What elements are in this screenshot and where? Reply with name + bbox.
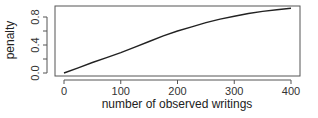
y-tick-label: 0.4 [29, 37, 41, 52]
x-axis-label: number of observed writings [102, 97, 253, 111]
plot-box [55, 6, 300, 76]
penalty-chart: 0.00.40.8 0100200300400 number of observ… [0, 0, 318, 118]
y-axis-label: penalty [3, 21, 17, 60]
x-tick-label: 300 [225, 85, 243, 97]
penalty-curve [64, 8, 291, 73]
x-tick-label: 100 [112, 85, 130, 97]
y-tick-label: 0.8 [29, 9, 41, 24]
y-tick-label: 0.0 [29, 65, 41, 80]
x-tick-label: 400 [282, 85, 300, 97]
x-tick-label: 200 [168, 85, 186, 97]
x-axis: 0100200300400 [61, 80, 300, 97]
y-axis: 0.00.40.8 [29, 9, 47, 80]
x-tick-label: 0 [61, 85, 67, 97]
